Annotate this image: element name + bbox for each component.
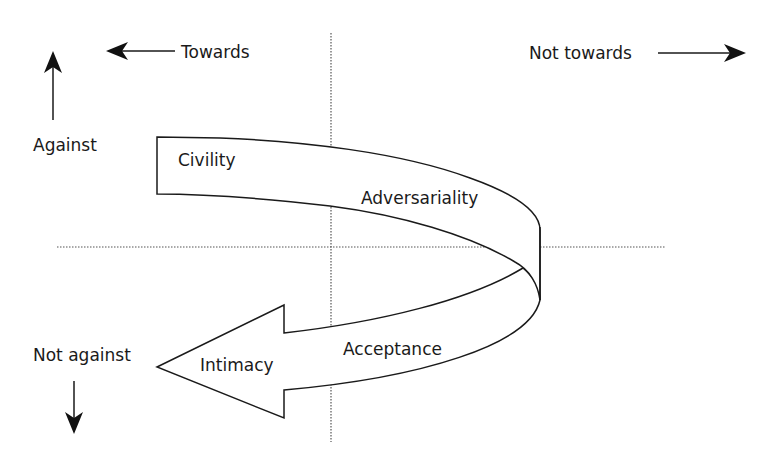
relationship-spiral-diagram: Civility Adversariality Acceptance Intim… [0,0,778,472]
stage-intimacy-label: Intimacy [200,355,274,375]
arrow-left-icon [106,42,175,60]
not-against-label: Not against [33,345,131,365]
against-label: Against [33,135,97,155]
not-towards-label: Not towards [529,43,632,63]
arrow-right-icon [658,44,746,62]
stage-civility-label: Civility [178,150,236,170]
stage-acceptance-label: Acceptance [343,339,442,359]
stage-adversariality-label: Adversariality [361,188,478,208]
arrow-down-icon [65,381,83,434]
arrow-up-icon [44,51,62,120]
towards-label: Towards [180,42,250,62]
